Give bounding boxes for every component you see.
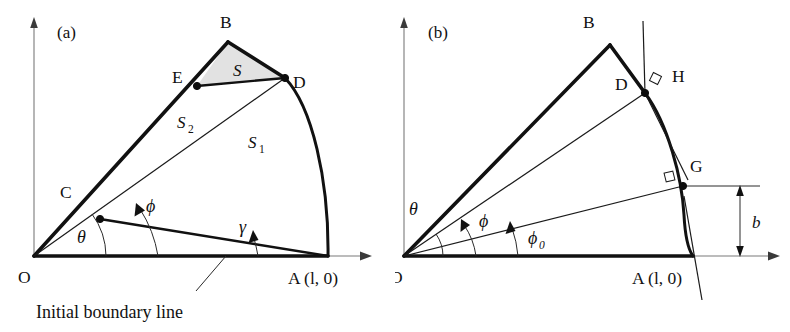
caption-leader-line bbox=[196, 256, 226, 291]
label-region-S1: S 1 bbox=[248, 133, 265, 155]
angle-arrowhead-phi0-b-icon bbox=[506, 221, 516, 234]
x-axis-arrowhead-icon bbox=[360, 252, 372, 261]
point-C-dot bbox=[96, 215, 103, 222]
label-angle-phi-a: ϕ bbox=[146, 196, 155, 216]
label-region-S1-sub: 1 bbox=[259, 143, 265, 155]
label-angle-phi0-base: ϕ bbox=[528, 228, 537, 248]
point-D-dot bbox=[281, 74, 288, 81]
segment-OB bbox=[404, 45, 610, 256]
label-point-O-b: O bbox=[395, 267, 403, 287]
caption-initial-boundary-line: Initial boundary line bbox=[36, 302, 183, 322]
initial-boundary-line-segment bbox=[100, 219, 328, 256]
label-point-B-b: B bbox=[583, 12, 595, 32]
label-angle-phi0-sub: 0 bbox=[539, 239, 545, 251]
angle-arrowhead-phi-b-icon bbox=[461, 219, 471, 232]
label-angle-gamma-a: γ bbox=[239, 217, 247, 237]
segment-OD-b bbox=[404, 93, 645, 256]
angle-arc-phi-a bbox=[140, 209, 158, 256]
segment-DH-upper bbox=[643, 21, 645, 93]
panel-b-label: (b) bbox=[428, 23, 448, 42]
point-E-dot bbox=[193, 82, 200, 89]
right-angle-marker-D bbox=[649, 72, 661, 84]
x-axis-arrowhead-icon bbox=[768, 252, 780, 261]
segment-DH-lower bbox=[645, 93, 688, 180]
label-point-A-a: A (l, 0) bbox=[288, 268, 338, 288]
label-point-A-b: A (l, 0) bbox=[632, 268, 682, 288]
panel-a-svg: (a) B E D C O A (l, 0) S S 1 S 2 θ ϕ γ bbox=[0, 0, 395, 332]
panel-a: (a) B E D C O A (l, 0) S S 1 S 2 θ ϕ γ bbox=[0, 0, 395, 332]
angle-arrowhead-gamma-a-icon bbox=[249, 230, 259, 243]
point-D-dot-b bbox=[641, 89, 648, 96]
label-dimension-b: b bbox=[752, 213, 761, 232]
label-region-S2-sub: 2 bbox=[188, 123, 194, 135]
segment-G-tangent-lower bbox=[684, 196, 702, 300]
label-point-O-a: O bbox=[18, 267, 31, 287]
panel-a-label: (a) bbox=[57, 23, 76, 42]
angle-arc-phi0-b bbox=[512, 228, 518, 256]
figure-container: (a) B E D C O A (l, 0) S S 1 S 2 θ ϕ γ bbox=[0, 0, 790, 332]
label-angle-theta-a: θ bbox=[77, 227, 86, 247]
label-region-S2-base: S bbox=[177, 113, 186, 132]
label-angle-phi0-b: ϕ 0 bbox=[528, 228, 545, 251]
panel-b-svg: (b) B D H G O A (l, 0) θ ϕ ϕ 0 b bbox=[395, 0, 790, 332]
label-region-S: S bbox=[233, 61, 242, 80]
panel-b: (b) B D H G O A (l, 0) θ ϕ ϕ 0 b bbox=[395, 0, 790, 332]
label-region-S1-base: S bbox=[248, 133, 257, 152]
label-point-B-a: B bbox=[220, 12, 232, 32]
y-axis-arrowhead-icon bbox=[400, 17, 408, 28]
right-angle-marker-G bbox=[664, 171, 675, 182]
dimension-arrowhead-down-icon bbox=[736, 246, 744, 257]
point-G-dot-b bbox=[679, 182, 686, 189]
y-axis-arrowhead-icon bbox=[30, 17, 38, 28]
y-axis-b bbox=[400, 17, 408, 256]
label-angle-theta-b: θ bbox=[409, 199, 418, 219]
angle-arc-theta-b bbox=[436, 234, 443, 256]
dimension-arrowhead-up-icon bbox=[736, 185, 744, 196]
label-point-D-a: D bbox=[293, 72, 306, 92]
label-region-S2: S 2 bbox=[177, 113, 194, 135]
label-point-H-b: H bbox=[672, 66, 685, 86]
label-point-E-a: E bbox=[172, 67, 183, 87]
y-axis-a bbox=[30, 17, 38, 256]
dimension-b-arrow bbox=[736, 185, 744, 257]
label-point-D-b: D bbox=[615, 74, 628, 94]
label-angle-phi-b: ϕ bbox=[479, 211, 488, 231]
label-point-C-a: C bbox=[60, 182, 72, 202]
arc-DA bbox=[285, 78, 328, 256]
label-point-G-b: G bbox=[690, 156, 703, 176]
